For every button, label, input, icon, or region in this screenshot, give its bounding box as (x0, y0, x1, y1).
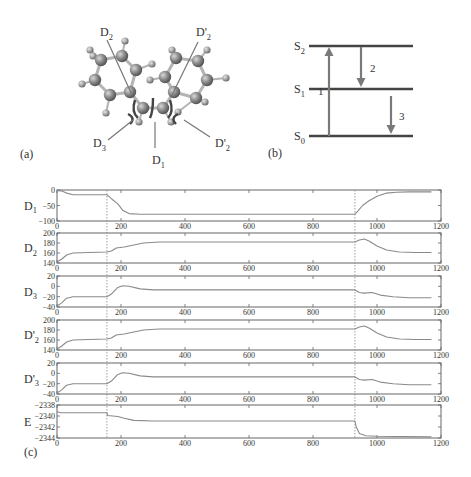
x-tick-label: 1200 (433, 439, 449, 448)
x-tick-label: 200 (115, 351, 127, 360)
y-axis-label: D'2 (24, 328, 39, 345)
x-tick-label: 800 (307, 264, 319, 273)
y-tick-label: −50 (42, 202, 55, 211)
x-tick-label: 400 (179, 308, 191, 317)
x-tick-label: 600 (243, 264, 255, 273)
x-tick-label: 800 (307, 308, 319, 317)
x-tick-label: 1000 (369, 308, 385, 317)
y-tick-label: −2342 (34, 423, 55, 432)
arrowhead-icon (325, 47, 334, 56)
energy-level-label: S2 (294, 39, 305, 56)
energy-level-label: S1 (294, 82, 305, 99)
y-axis-label: D1 (24, 199, 37, 216)
x-tick-label: 600 (243, 222, 255, 231)
annotation-leader-line (172, 42, 198, 95)
x-tick-label: 1200 (433, 351, 449, 360)
x-tick-label: 200 (115, 308, 127, 317)
x-tick-label: 0 (55, 395, 59, 404)
x-tick-label: 1200 (433, 308, 449, 317)
x-tick-label: 800 (307, 395, 319, 404)
data-series-line (57, 326, 431, 349)
y-tick-label: −20 (42, 380, 55, 389)
y-axis-label: D2 (24, 241, 37, 258)
annotation-label: D'2 (196, 25, 211, 42)
annotation-leader-line (184, 120, 210, 137)
x-tick-label: 1000 (369, 351, 385, 360)
x-tick-label: 600 (243, 395, 255, 404)
subplot-5: 020040060080010001200200−20−40D'3 (24, 359, 449, 404)
subplot-6: 020040060080010001200−2338−2340−2342−234… (24, 401, 449, 448)
y-tick-label: 140 (43, 346, 55, 355)
transition-label: 2 (370, 62, 376, 74)
subplot-4: 020040060080010001200200180160140D'2 (24, 316, 449, 360)
annotation-label: D1 (152, 153, 165, 170)
y-tick-label: 0 (51, 369, 55, 378)
x-tick-label: 1000 (369, 264, 385, 273)
x-tick-label: 400 (179, 351, 191, 360)
x-tick-label: 800 (307, 439, 319, 448)
x-tick-label: 1200 (433, 264, 449, 273)
x-tick-label: 400 (179, 439, 191, 448)
y-axis-label: D'3 (24, 372, 39, 389)
x-tick-label: 200 (115, 264, 127, 273)
energy-level-diagram: S2S1S0123 (294, 39, 413, 146)
y-tick-label: 0 (51, 282, 55, 291)
y-tick-label: 200 (43, 229, 55, 238)
x-tick-label: 1200 (433, 395, 449, 404)
y-tick-label: 180 (43, 239, 55, 248)
panel-label-b: (b) (268, 146, 282, 160)
y-axis-label: E (24, 415, 31, 429)
x-tick-label: 1000 (369, 222, 385, 231)
energy-level-label: S0 (294, 129, 305, 146)
y-tick-label: −40 (42, 303, 55, 312)
annotation-label: D'2 (215, 136, 230, 153)
figure-canvas: D2D'2D3D1D'2 (a) S2S1S0123 (b) 020040060… (0, 0, 471, 477)
data-series-line (57, 286, 431, 306)
x-tick-label: 0 (55, 351, 59, 360)
x-tick-label: 600 (243, 308, 255, 317)
annotation-leader-line (108, 120, 133, 140)
annotation-label: D2 (100, 25, 113, 42)
x-tick-label: 1000 (369, 395, 385, 404)
plot-frame (57, 320, 441, 350)
x-tick-label: 0 (55, 222, 59, 231)
y-axis-label: D3 (24, 285, 37, 302)
y-tick-label: 20 (47, 272, 55, 281)
x-tick-label: 200 (115, 439, 127, 448)
annotation-label: D3 (93, 136, 106, 153)
arrowhead-icon (357, 78, 366, 87)
data-series-line (57, 373, 431, 393)
y-tick-label: −100 (38, 217, 55, 226)
arrowhead-icon (387, 125, 396, 134)
y-tick-label: 200 (43, 316, 55, 325)
panel-label-a: (a) (20, 147, 33, 161)
y-tick-label: −2338 (34, 401, 55, 410)
x-tick-label: 0 (55, 439, 59, 448)
x-tick-label: 800 (307, 351, 319, 360)
x-tick-label: 0 (55, 308, 59, 317)
y-tick-label: 140 (43, 259, 55, 268)
y-tick-label: −2344 (34, 434, 55, 443)
y-tick-label: 180 (43, 326, 55, 335)
x-tick-label: 1000 (369, 439, 385, 448)
y-tick-label: −20 (42, 293, 55, 302)
x-tick-label: 1200 (433, 222, 449, 231)
transition-label: 3 (399, 110, 405, 122)
y-tick-label: −40 (42, 390, 55, 399)
y-tick-label: 20 (47, 359, 55, 368)
subplot-3: 020040060080010001200200−20−40D3 (24, 272, 449, 317)
data-series-line (57, 239, 431, 262)
subplot-1: 0200400600800100012000−50−100D1 (24, 186, 449, 231)
y-tick-label: 160 (43, 336, 55, 345)
molecule-structure-image (78, 37, 229, 125)
data-series-line (57, 412, 431, 437)
x-tick-label: 400 (179, 395, 191, 404)
y-tick-label: 0 (51, 186, 55, 195)
x-tick-label: 400 (179, 264, 191, 273)
annotation-leader-line (107, 40, 132, 95)
y-tick-label: 160 (43, 249, 55, 258)
time-series-plots: 0200400600800100012000−50−100D1020040060… (24, 186, 449, 448)
panel-label-c: (c) (24, 445, 37, 459)
plot-frame (57, 233, 441, 263)
y-tick-label: −2340 (34, 412, 55, 421)
